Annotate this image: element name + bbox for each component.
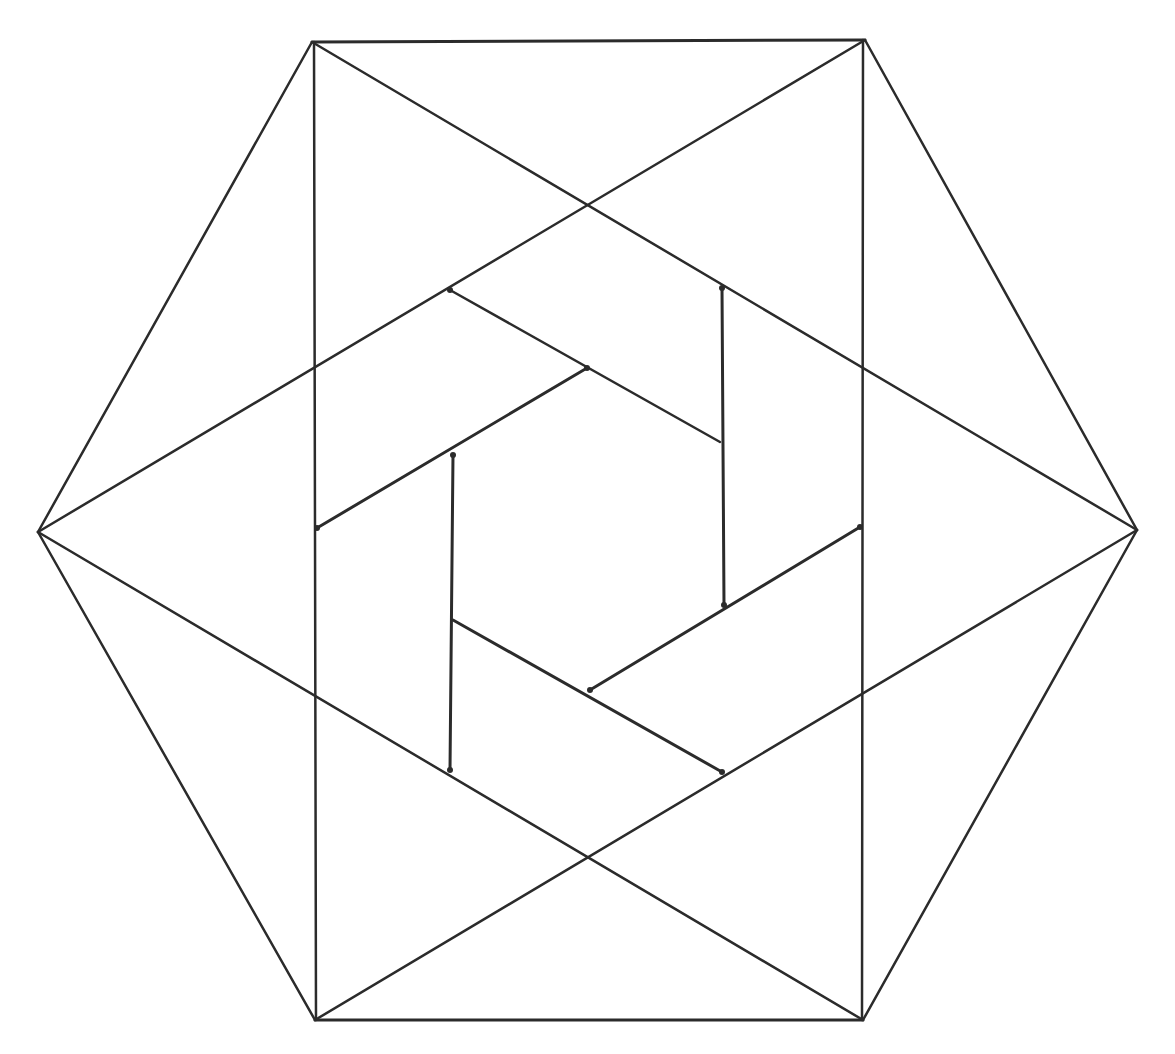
joint-dot [447,767,453,773]
hexagon-line [863,530,1137,1020]
geometric-diagram [0,0,1175,1054]
rectangle-line [314,42,316,1020]
diagram-joints [314,285,863,775]
joint-dot [587,687,593,693]
rectangle-line [862,40,863,1020]
pinwheel-line [722,288,724,605]
joint-dot [584,365,590,371]
diagram-lines [38,40,1137,1020]
joint-dot [450,452,456,458]
hexagon-line [38,532,315,1020]
pinwheel-line [450,455,453,770]
pinwheel-line [453,620,722,772]
joint-dot [719,285,725,291]
joint-dot [719,769,725,775]
joint-dot [721,602,727,608]
hexagon-line [312,40,865,42]
hexagon-line [865,40,1137,530]
joint-dot [857,524,863,530]
hexagon-line [38,42,312,532]
joint-dot [447,287,453,293]
joint-dot [314,525,320,531]
